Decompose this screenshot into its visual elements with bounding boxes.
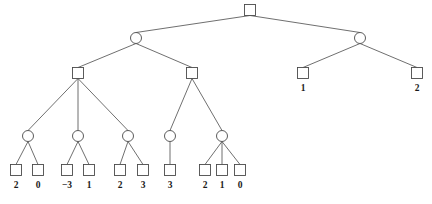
min-node — [217, 131, 228, 142]
tree-edge — [136, 44, 192, 68]
tree-edge — [120, 142, 128, 165]
leaf-value-label: 0 — [36, 180, 41, 190]
leaf-value-label: 2 — [415, 83, 420, 93]
tree-edge — [205, 142, 222, 165]
tree-edge — [78, 44, 136, 68]
leaf-value-label: 2 — [203, 180, 208, 190]
leaf-value-label: 2 — [14, 180, 19, 190]
max-node — [217, 165, 228, 176]
min-node — [165, 131, 176, 142]
leaf-value-label: 2 — [118, 180, 123, 190]
tree-edge — [78, 79, 128, 131]
max-node — [11, 165, 22, 176]
max-node — [245, 5, 256, 16]
tree-edge — [128, 142, 143, 165]
min-node — [23, 131, 34, 142]
tree-edge — [192, 79, 222, 131]
tree-edge — [170, 79, 192, 131]
tree-edge — [28, 79, 78, 131]
leaf-value-label: −3 — [62, 180, 72, 190]
max-node — [298, 68, 309, 79]
tree-edge — [16, 142, 28, 165]
tree-edge — [360, 44, 417, 68]
max-node — [200, 165, 211, 176]
tree-edge — [222, 142, 240, 165]
tree-edge — [303, 44, 360, 68]
leaf-value-label: 1 — [220, 180, 225, 190]
min-node — [131, 33, 142, 44]
tree-edge — [136, 16, 250, 33]
max-node — [62, 165, 73, 176]
min-node — [73, 131, 84, 142]
tree-edge — [78, 142, 89, 165]
max-node — [84, 165, 95, 176]
leaf-value-label: 3 — [141, 180, 146, 190]
leaf-value-label: 1 — [87, 180, 92, 190]
tree-edge — [250, 16, 360, 33]
leaf-value-label: 3 — [168, 180, 173, 190]
tree-nodes — [11, 5, 423, 176]
min-node — [123, 131, 134, 142]
game-tree-figure: 1220−31233210 — [0, 0, 432, 204]
min-node — [355, 33, 366, 44]
game-tree-svg: 1220−31233210 — [0, 0, 432, 204]
max-node — [412, 68, 423, 79]
max-node — [73, 68, 84, 79]
max-node — [138, 165, 149, 176]
max-node — [235, 165, 246, 176]
max-node — [33, 165, 44, 176]
tree-edge — [28, 142, 38, 165]
max-node — [165, 165, 176, 176]
tree-edge — [67, 142, 78, 165]
leaf-value-label: 1 — [301, 83, 306, 93]
leaf-value-label: 0 — [238, 180, 243, 190]
max-node — [115, 165, 126, 176]
max-node — [187, 68, 198, 79]
